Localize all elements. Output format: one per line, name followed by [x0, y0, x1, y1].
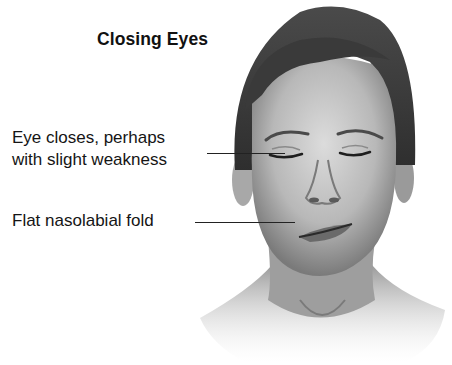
label-nasolabial-fold: Flat nasolabial fold	[12, 210, 154, 232]
leader-line-eye	[207, 153, 285, 154]
label-eye-closes: Eye closes, perhaps with slight weakness	[12, 127, 167, 171]
label-eye-line-2: with slight weakness	[12, 149, 167, 171]
label-fold-line-1: Flat nasolabial fold	[12, 210, 154, 232]
face	[252, 56, 396, 276]
figure-title: Closing Eyes	[97, 29, 208, 50]
label-eye-line-1: Eye closes, perhaps	[12, 127, 167, 149]
leader-line-fold	[195, 222, 295, 223]
face-illustration	[0, 0, 452, 365]
